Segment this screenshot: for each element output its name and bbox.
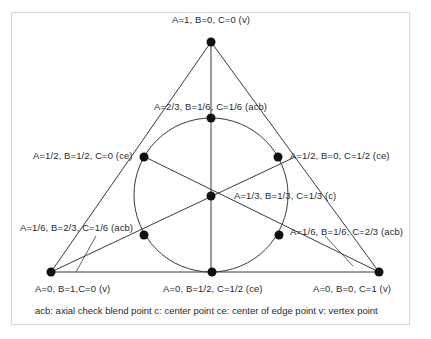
point-bottom-right-vertex: [375, 268, 384, 277]
label-center: A=1/3, B=1/3, C=1/3 (c): [234, 190, 336, 201]
label-bottom-left-vertex: A=0, B=1,C=0 (v): [35, 283, 110, 294]
point-acb-right: [275, 231, 284, 240]
point-bottom-left-vertex: [47, 268, 56, 277]
label-acb-top: A=2/3, B=1/6, C=1/6 (acb): [154, 101, 267, 112]
leader-acb-left: [76, 236, 96, 272]
label-top-vertex: A=1, B=0, C=0 (v): [172, 14, 250, 25]
point-center: [207, 192, 216, 201]
median-c: [145, 157, 379, 272]
leader-acb-right: [325, 236, 353, 266]
point-acb-left: [140, 231, 149, 240]
median-b: [51, 157, 295, 272]
point-acb-top: [207, 114, 216, 123]
label-acb-right: A=1/6, B=1/6, C=2/3 (acb): [290, 226, 403, 237]
point-ce-right: [274, 153, 283, 162]
label-acb-left: A=1/6, B=2/3, C=1/6 (acb): [20, 222, 133, 233]
point-top-vertex: [207, 38, 216, 47]
legend: acb: axial check blend point c: center p…: [35, 305, 378, 316]
point-ce-left: [140, 153, 149, 162]
label-ce-left: A=1/2, B=1/2, C=0 (ce): [33, 150, 133, 161]
label-ce-bottom: A=0, B=1/2, C=1/2 (ce): [163, 283, 263, 294]
label-bottom-right-vertex: A=0, B=0, C=1 (v): [313, 283, 391, 294]
label-ce-right: A=1/2, B=0, C=1/2 (ce): [290, 150, 390, 161]
point-ce-bottom: [208, 268, 217, 277]
